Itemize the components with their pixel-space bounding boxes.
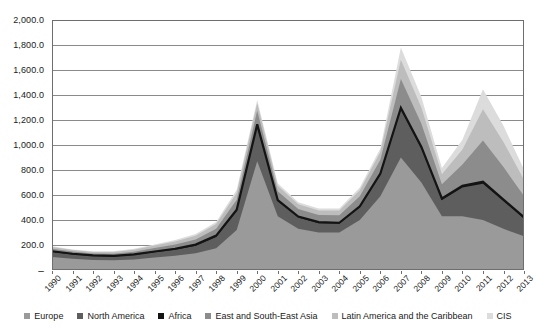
x-axis-tickmark xyxy=(196,271,197,274)
legend-item[interactable]: CIS xyxy=(487,312,512,321)
y-axis-tick-label: 1,400.0 xyxy=(13,90,44,100)
x-axis-tickmark xyxy=(483,271,484,274)
legend-item[interactable]: East and South-East Asia xyxy=(205,312,317,321)
y-axis-tick-label: 2,000.0 xyxy=(13,15,44,25)
x-axis-tick-label: 2005 xyxy=(350,273,371,294)
x-axis-tickmark xyxy=(462,271,463,274)
legend-item[interactable]: Europe xyxy=(24,312,63,321)
x-axis-tickmark xyxy=(237,271,238,274)
y-axis: 2,000.01,800.01,600.01,400.01,200.01,000… xyxy=(0,20,48,270)
x-axis-tick-label: 1999 xyxy=(227,273,248,294)
x-axis-tick-label: 1991 xyxy=(63,273,84,294)
x-axis-tick-label: 2007 xyxy=(391,273,412,294)
series-areas xyxy=(52,20,524,270)
x-axis-tick-label: 1993 xyxy=(104,273,125,294)
x-axis-tick-label: 2002 xyxy=(289,273,310,294)
x-axis-tick-label: 2008 xyxy=(412,273,433,294)
legend-swatch-icon xyxy=(158,313,164,319)
x-axis-tickmark xyxy=(380,271,381,274)
x-axis-tickmark xyxy=(155,271,156,274)
x-axis-tickmark xyxy=(524,271,525,274)
x-axis-tick-label: 2000 xyxy=(248,273,269,294)
legend-label: Africa xyxy=(168,312,191,321)
x-axis-tickmark xyxy=(298,271,299,274)
x-axis-tickmark xyxy=(257,271,258,274)
x-axis-tickmark xyxy=(421,271,422,274)
legend-label: CIS xyxy=(497,312,512,321)
x-axis-tick-label: 1990 xyxy=(42,273,63,294)
x-axis-tick-label: 2011 xyxy=(474,273,494,293)
y-axis-tick-label: 1,200.0 xyxy=(13,115,44,125)
y-axis-tick-label: 600.0 xyxy=(21,190,44,200)
x-axis-tickmark xyxy=(73,271,74,274)
x-axis-tickmark xyxy=(175,271,176,274)
y-axis-tick-label: 800.0 xyxy=(21,165,44,175)
x-axis-tick-label: 1992 xyxy=(83,273,104,294)
x-axis-tick-label: 1994 xyxy=(124,273,145,294)
legend-item[interactable]: Africa xyxy=(158,312,191,321)
x-axis-tick-label: 2009 xyxy=(432,273,453,294)
x-axis-tick-label: 2006 xyxy=(371,273,392,294)
x-axis: 1990199119921993199419951996199719981999… xyxy=(52,271,524,309)
x-axis-tick-label: 2012 xyxy=(494,273,515,294)
x-axis-tick-label: 1996 xyxy=(165,273,186,294)
y-axis-tick-label: 200.0 xyxy=(21,240,44,250)
x-axis-tick-label: 2013 xyxy=(514,273,535,294)
legend-item[interactable]: North America xyxy=(77,312,144,321)
plot-area xyxy=(52,20,524,270)
x-axis-tick-label: 2004 xyxy=(330,273,351,294)
x-axis-tickmark xyxy=(93,271,94,274)
legend-label: Europe xyxy=(34,312,63,321)
x-axis-tick-label: 1997 xyxy=(186,273,207,294)
x-axis-tickmark xyxy=(114,271,115,274)
x-axis-tickmark xyxy=(319,271,320,274)
x-axis-tickmark xyxy=(52,271,53,274)
x-axis-tickmark xyxy=(442,271,443,274)
x-axis-tick-label: 1995 xyxy=(145,273,166,294)
legend-swatch-icon xyxy=(332,313,338,319)
stacked-area-chart: 2,000.01,800.01,600.01,400.01,200.01,000… xyxy=(0,0,536,331)
x-axis-tick-label: 2010 xyxy=(453,273,474,294)
y-axis-tick-label: – xyxy=(38,265,44,276)
legend-item[interactable]: Latin America and the Caribbean xyxy=(332,312,473,321)
x-axis-tick-label: 1998 xyxy=(207,273,228,294)
chart-legend: EuropeNorth AmericaAfricaEast and South-… xyxy=(0,308,536,324)
y-axis-tick-label: 400.0 xyxy=(21,215,44,225)
x-axis-tickmark xyxy=(216,271,217,274)
legend-label: Latin America and the Caribbean xyxy=(342,312,473,321)
x-axis-tickmark xyxy=(339,271,340,274)
x-axis-tickmark xyxy=(278,271,279,274)
y-axis-tick-label: 1,800.0 xyxy=(13,40,44,50)
legend-label: East and South-East Asia xyxy=(215,312,317,321)
legend-swatch-icon xyxy=(24,313,30,319)
y-axis-tick-label: 1,600.0 xyxy=(13,65,44,75)
x-axis-tick-label: 2003 xyxy=(309,273,330,294)
legend-swatch-icon xyxy=(205,313,211,319)
x-axis-tickmark xyxy=(360,271,361,274)
x-axis-tickmark xyxy=(401,271,402,274)
legend-swatch-icon xyxy=(487,313,493,319)
x-axis-tick-label: 2001 xyxy=(268,273,289,294)
x-axis-tickmark xyxy=(504,271,505,274)
x-axis-tickmark xyxy=(134,271,135,274)
legend-label: North America xyxy=(87,312,144,321)
y-axis-tick-label: 1,000.0 xyxy=(13,140,44,150)
legend-swatch-icon xyxy=(77,313,83,319)
